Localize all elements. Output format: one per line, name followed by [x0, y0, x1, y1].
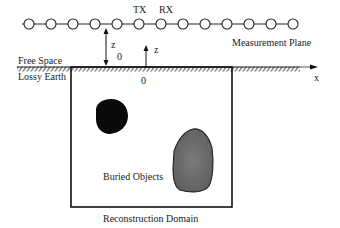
z0-subscript: 0 — [117, 52, 122, 62]
measurement-plane — [22, 19, 298, 29]
origin-label: 0 — [141, 76, 146, 86]
z-label: z — [154, 45, 158, 55]
rx-label: RX — [159, 5, 173, 15]
z0-label: z — [111, 40, 115, 50]
buried-objects-label: Buried Objects — [103, 172, 163, 182]
tx-label: TX — [133, 5, 146, 15]
buried-object-gray — [173, 129, 213, 192]
measurement-plane-label: Measurement Plane — [232, 38, 311, 48]
z0-height-arrow — [104, 28, 109, 66]
free-space-label: Free Space — [18, 56, 62, 66]
x-axis-arrow — [300, 65, 318, 70]
reconstruction-domain-caption: Reconstruction Domain — [103, 214, 198, 224]
x-axis-label: x — [314, 73, 319, 83]
z0-main: z — [111, 39, 115, 50]
lossy-earth-label: Lossy Earth — [18, 72, 66, 82]
diagram-canvas — [0, 0, 340, 228]
z-axis-arrow — [144, 45, 149, 67]
buried-object-dark — [96, 99, 128, 134]
